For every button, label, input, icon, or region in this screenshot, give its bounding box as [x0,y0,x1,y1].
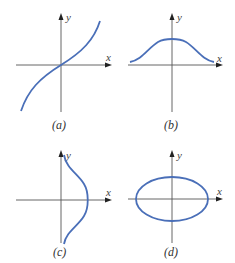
y-axis-label: y [176,11,182,23]
x-axis-label: x [105,51,111,63]
x-axis-label: x [216,52,222,64]
curve-a [21,21,100,111]
y-axis-arrow-icon [59,13,64,20]
panel-c: y x (c) [16,149,112,259]
caption-a: (a) [52,118,66,132]
x-axis-arrow-icon [105,198,112,203]
four-graphs-figure: y x (a) y x (b) y x (c) y x (d) [0,0,235,263]
y-axis-label: y [65,11,71,23]
curve-c [64,155,88,244]
y-axis-label: y [176,149,182,161]
x-axis-label: x [216,185,222,197]
caption-b: (b) [164,118,178,132]
panel-a: y x (a) [16,11,112,132]
x-axis-arrow-icon [216,197,223,202]
panel-d: y x (d) [128,149,223,259]
caption-c: (c) [53,245,66,259]
caption-d: (d) [164,245,178,259]
y-axis-arrow-icon [170,13,175,20]
y-axis-arrow-icon [59,150,64,157]
x-axis-arrow-icon [105,63,112,68]
panel-b: y x (b) [128,11,223,132]
y-axis-arrow-icon [170,150,175,157]
x-axis-label: x [105,186,111,198]
